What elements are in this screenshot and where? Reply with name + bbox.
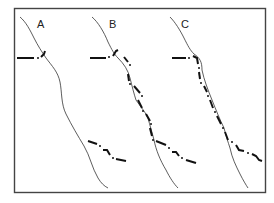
panel-c-lower-thick-dash xyxy=(236,145,244,151)
panel-a-lower-thick-dash xyxy=(88,141,97,144)
panel-b: B xyxy=(90,17,196,188)
panel-c-label: C xyxy=(181,18,189,30)
diagram-figure: A B xyxy=(0,0,274,203)
diagram-canvas: A B xyxy=(0,0,274,203)
panel-c-thin-line xyxy=(170,17,248,188)
panel-a-thin-line xyxy=(20,17,108,188)
panel-a-label: A xyxy=(37,18,45,30)
panel-b-lower-thick-dash xyxy=(156,141,166,145)
frame-border xyxy=(15,9,266,193)
panel-c: C xyxy=(170,17,262,188)
panel-b-label: B xyxy=(109,18,116,30)
panel-b-thin-line xyxy=(92,17,178,188)
panel-a: A xyxy=(17,17,126,188)
